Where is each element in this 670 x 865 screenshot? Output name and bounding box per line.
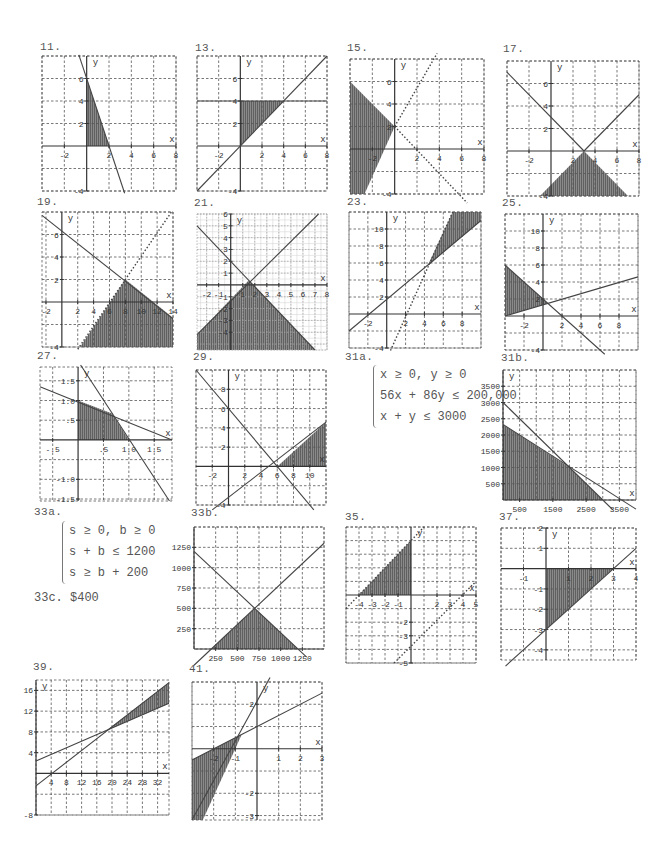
- svg-text:2500: 2500: [577, 505, 596, 514]
- svg-text:2: 2: [233, 120, 238, 129]
- svg-text:8: 8: [325, 151, 330, 160]
- svg-text:-2: -2: [41, 307, 51, 316]
- svg-text:-4: -4: [218, 328, 228, 337]
- svg-text:6: 6: [233, 75, 238, 84]
- svg-text:1: 1: [538, 544, 543, 553]
- svg-text:-1: -1: [218, 293, 228, 302]
- svg-text:4: 4: [593, 156, 598, 165]
- graph-27: -.5.51.01.5-1.5-1.0.51.01.5xy: [40, 367, 172, 501]
- svg-text:2: 2: [260, 151, 265, 160]
- svg-text:12: 12: [152, 307, 162, 316]
- svg-text:2500: 2500: [481, 415, 500, 424]
- problem-label-41: 41.: [189, 663, 210, 675]
- svg-text:-3: -3: [244, 812, 254, 821]
- problem-label-21: 21.: [194, 197, 215, 209]
- svg-text:500: 500: [177, 604, 192, 613]
- svg-text:2: 2: [79, 120, 84, 129]
- svg-text:2: 2: [223, 257, 228, 266]
- graph-31b: 5001500250035005001000150020002500300035…: [503, 370, 636, 500]
- svg-text:750: 750: [177, 584, 192, 593]
- svg-text:y: y: [549, 216, 555, 226]
- svg-text:6: 6: [441, 319, 446, 328]
- svg-text:8: 8: [64, 778, 69, 787]
- svg-text:8: 8: [28, 728, 33, 737]
- svg-text:-.5: -.5: [45, 445, 60, 454]
- svg-text:500: 500: [230, 654, 245, 663]
- problem-label-35: 35.: [345, 511, 366, 523]
- svg-text:-2: -2: [202, 290, 212, 299]
- svg-text:-2: -2: [214, 151, 224, 160]
- svg-text:10: 10: [305, 471, 315, 480]
- svg-text:1000: 1000: [271, 654, 290, 663]
- svg-text:2: 2: [571, 156, 576, 165]
- answer-33c: 33c. $400: [34, 591, 99, 605]
- svg-text:8: 8: [637, 156, 642, 165]
- svg-text:8: 8: [482, 154, 487, 163]
- problem-label-31a: 31a.: [345, 351, 373, 363]
- svg-text:1.5: 1.5: [147, 445, 162, 454]
- svg-text:y: y: [235, 372, 241, 382]
- svg-text:10: 10: [530, 227, 540, 236]
- svg-text:2: 2: [560, 321, 565, 330]
- svg-text:x: x: [166, 291, 171, 301]
- boundary-line: [395, 127, 468, 204]
- svg-text:4: 4: [91, 307, 96, 316]
- problem-label-23: 23.: [347, 196, 368, 208]
- svg-text:-1: -1: [519, 574, 529, 583]
- svg-text:y: y: [42, 682, 48, 692]
- svg-text:20: 20: [107, 778, 117, 787]
- svg-text:y: y: [417, 529, 423, 539]
- svg-text:-3: -3: [398, 632, 408, 641]
- boundary-line: [506, 548, 637, 666]
- svg-text:6: 6: [615, 156, 620, 165]
- svg-text:8: 8: [460, 319, 465, 328]
- svg-text:2: 2: [435, 600, 440, 609]
- svg-text:8: 8: [379, 242, 384, 251]
- graph-25: -22468-4246810xy: [505, 214, 638, 350]
- svg-text:6: 6: [301, 290, 306, 299]
- svg-text:-4: -4: [533, 646, 543, 655]
- svg-text:1250: 1250: [172, 543, 191, 552]
- svg-text:4: 4: [379, 276, 384, 285]
- graph-13: -22468-4246xy: [197, 56, 327, 191]
- inequality-row: s + b ≤ 1200: [62, 542, 155, 563]
- svg-text:2: 2: [242, 471, 247, 480]
- svg-text:-5: -5: [398, 659, 408, 668]
- svg-text:4: 4: [281, 151, 286, 160]
- svg-text:8: 8: [535, 244, 540, 253]
- svg-text:-4: -4: [374, 344, 384, 353]
- problem-label-13: 13.: [195, 42, 216, 54]
- svg-text:8: 8: [291, 471, 296, 480]
- svg-text:x: x: [320, 135, 325, 145]
- svg-text:4: 4: [129, 151, 134, 160]
- svg-text:5: 5: [474, 600, 479, 609]
- svg-text:-1.0: -1.0: [56, 475, 75, 484]
- problem-label-39: 39.: [33, 661, 54, 673]
- svg-text:14: 14: [168, 307, 178, 316]
- graph-17: -22468-4246xy: [507, 61, 639, 196]
- boundary-line: [36, 683, 169, 786]
- svg-text:4: 4: [28, 749, 33, 758]
- svg-text:y: y: [552, 530, 558, 540]
- svg-text:12: 12: [23, 707, 33, 716]
- svg-text:3: 3: [448, 600, 453, 609]
- svg-text:10: 10: [374, 225, 384, 234]
- svg-text:4: 4: [634, 574, 639, 583]
- svg-text:x: x: [631, 305, 636, 315]
- svg-text:-2: -2: [60, 151, 70, 160]
- graph-11: -22468-4246xy: [42, 56, 176, 191]
- svg-text:-1: -1: [393, 600, 403, 609]
- svg-text:-2: -2: [380, 600, 390, 609]
- svg-text:6: 6: [107, 307, 112, 316]
- svg-text:8: 8: [617, 321, 622, 330]
- svg-text:4: 4: [49, 778, 54, 787]
- svg-text:4: 4: [79, 97, 84, 106]
- svg-text:x: x: [474, 303, 479, 313]
- inequality-row: s ≥ b + 200: [62, 563, 155, 584]
- svg-text:5: 5: [288, 290, 293, 299]
- problem-label-29: 29.: [193, 351, 214, 363]
- answer-label: 33c.: [34, 591, 63, 605]
- graph-21: -2-112345678-4-3-2-1123456xy: [197, 214, 327, 350]
- svg-text:x: x: [315, 738, 320, 748]
- svg-text:3: 3: [320, 754, 325, 763]
